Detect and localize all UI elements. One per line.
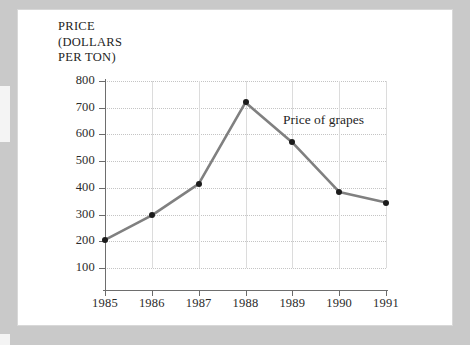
data-point-marker bbox=[383, 200, 389, 206]
data-point-marker bbox=[243, 99, 249, 105]
data-point-marker bbox=[102, 237, 108, 243]
data-point-marker bbox=[196, 181, 202, 187]
line-chart: 100200300400500600700800 198519861987198… bbox=[0, 0, 470, 345]
series-price-of-grapes bbox=[0, 0, 470, 345]
series-annotation-label: Price of grapes bbox=[283, 112, 364, 128]
data-point-marker bbox=[336, 189, 342, 195]
